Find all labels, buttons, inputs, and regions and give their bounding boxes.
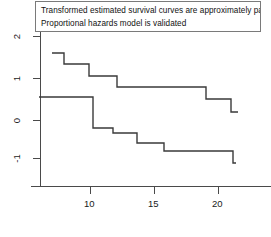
chart-container: 2 1 0 -1 10 15 20 Transformed estimated … (0, 0, 271, 237)
x-tick-label-15: 15 (148, 198, 159, 209)
annotation-line-2: Proportional hazards model is validated (36, 17, 260, 30)
annotation-line-1: Transformed estimated survival curves ar… (36, 2, 260, 17)
y-tick-label-neg1: -1 (11, 149, 22, 169)
series-line-lower (39, 97, 236, 163)
survival-plot (0, 0, 271, 237)
annotation-box: Transformed estimated survival curves ar… (35, 1, 261, 32)
y-tick-label-1: 1 (11, 71, 22, 87)
series-line-upper (52, 53, 238, 112)
x-tick-marks (91, 187, 219, 194)
y-tick-label-2: 2 (11, 29, 22, 45)
x-tick-label-10: 10 (84, 198, 95, 209)
x-tick-label-20: 20 (212, 198, 223, 209)
y-tick-marks (33, 37, 40, 159)
y-tick-label-0: 0 (11, 113, 22, 129)
